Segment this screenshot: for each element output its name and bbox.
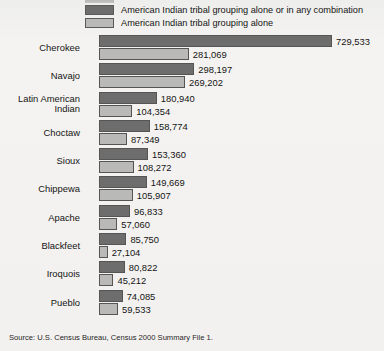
bar-combo — [99, 261, 125, 273]
bar-group: Cherokee729,533281,069 — [0, 34, 384, 62]
bar-value-label: 57,060 — [121, 219, 150, 230]
chart-figure: American Indian tribal grouping alone or… — [0, 0, 384, 351]
legend-label-alone: American Indian tribal grouping alone — [121, 18, 273, 28]
category-label: Pueblo — [0, 298, 80, 308]
legend-item-combination: American Indian tribal grouping alone or… — [85, 4, 380, 15]
category-label: Iroquois — [0, 269, 80, 279]
bar-value-label: 74,085 — [127, 291, 156, 302]
category-label-line: Indian — [0, 104, 80, 114]
bar-value-label: 45,212 — [117, 275, 146, 286]
legend-top-clipped-artifact — [85, 0, 205, 3]
bar-value-label: 729,533 — [336, 36, 370, 47]
category-label: Cherokee — [0, 43, 80, 53]
bar-combo — [99, 176, 147, 188]
bar-group: Pueblo74,08559,533 — [0, 289, 384, 317]
bar-group: Sioux153,360108,272 — [0, 147, 384, 175]
bar-combo — [99, 35, 332, 47]
bar-group: Choctaw158,77487,349 — [0, 119, 384, 147]
bar-value-label: 269,202 — [189, 77, 223, 88]
bar-group: Blackfeet85,75027,104 — [0, 232, 384, 260]
bar-alone — [99, 76, 185, 88]
bar-alone — [99, 161, 134, 173]
bar-value-label: 80,822 — [129, 262, 158, 273]
bar-value-label: 87,349 — [131, 134, 160, 145]
source-note: Source: U.S. Census Bureau, Census 2000 … — [9, 333, 213, 343]
bar-value-label: 153,360 — [152, 149, 186, 160]
bar-combo — [99, 148, 148, 160]
bar-combo — [99, 120, 150, 132]
bar-value-label: 96,833 — [134, 206, 163, 217]
bar-combo — [99, 63, 194, 75]
category-label-line: Iroquois — [0, 269, 80, 279]
category-label-line: Chippewa — [0, 184, 80, 194]
bar-alone — [99, 303, 118, 315]
bar-alone — [99, 133, 127, 145]
bar-alone — [99, 105, 132, 117]
bar-group: Latin AmericanIndian180,940104,354 — [0, 91, 384, 119]
bar-value-label: 27,104 — [112, 247, 141, 258]
category-label-line: Apache — [0, 213, 80, 223]
bar-alone — [99, 246, 108, 258]
bar-combo — [99, 290, 123, 302]
clipped-swatch-icon — [85, 0, 114, 3]
category-label: Chippewa — [0, 184, 80, 194]
bar-value-label: 85,750 — [130, 234, 159, 245]
bar-value-label: 105,907 — [137, 190, 171, 201]
legend-swatch-alone-icon — [85, 18, 114, 28]
bar-value-label: 104,354 — [136, 106, 170, 117]
legend-label-combination: American Indian tribal grouping alone or… — [121, 5, 363, 15]
bar-group: Chippewa149,669105,907 — [0, 175, 384, 203]
bar-combo — [99, 92, 157, 104]
bar-chart-plot-area: Cherokee729,533281,069Navajo298,197269,2… — [0, 34, 384, 322]
legend-swatch-combination-icon — [85, 5, 114, 15]
category-label: Navajo — [0, 71, 80, 81]
category-label-line: Blackfeet — [0, 241, 80, 251]
category-label-line: Choctaw — [0, 128, 80, 138]
category-label-line: Navajo — [0, 71, 80, 81]
bar-value-label: 180,940 — [161, 93, 195, 104]
category-label: Sioux — [0, 156, 80, 166]
category-label: Apache — [0, 213, 80, 223]
bar-group: Navajo298,197269,202 — [0, 62, 384, 90]
bar-group: Iroquois80,82245,212 — [0, 260, 384, 288]
bar-combo — [99, 205, 130, 217]
bar-value-label: 59,533 — [122, 304, 151, 315]
bar-value-label: 108,272 — [138, 162, 172, 173]
legend-item-alone: American Indian tribal grouping alone — [85, 17, 380, 28]
bar-value-label: 298,197 — [198, 64, 232, 75]
bar-group: Apache96,83357,060 — [0, 204, 384, 232]
bar-alone — [99, 189, 133, 201]
bar-value-label: 158,774 — [154, 121, 188, 132]
category-label-line: Sioux — [0, 156, 80, 166]
bar-value-label: 149,669 — [151, 177, 185, 188]
bar-combo — [99, 233, 126, 245]
chart-legend: American Indian tribal grouping alone or… — [85, 4, 380, 30]
bar-value-label: 281,069 — [193, 49, 227, 60]
category-label: Latin AmericanIndian — [0, 94, 80, 114]
category-label: Blackfeet — [0, 241, 80, 251]
bar-alone — [99, 274, 113, 286]
bar-alone — [99, 218, 117, 230]
bar-alone — [99, 48, 189, 60]
category-label-line: Pueblo — [0, 298, 80, 308]
category-label-line: Cherokee — [0, 43, 80, 53]
category-label: Choctaw — [0, 128, 80, 138]
